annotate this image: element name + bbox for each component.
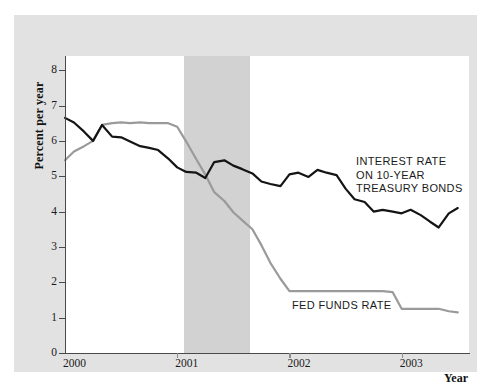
series-line-fed-funds-rate	[65, 122, 458, 312]
annotation-treasury-line-1: INTEREST RATE	[356, 155, 446, 167]
x-tick-label-2000: 2000	[63, 357, 86, 369]
plot-area	[65, 56, 469, 353]
annotation-fed-funds-rate: FED FUNDS RATE	[292, 299, 391, 313]
y-tick-1	[59, 318, 65, 319]
x-tick-label-2003: 2003	[400, 357, 423, 369]
annotation-treasury-line-2: ON 10-YEAR	[356, 169, 425, 181]
y-tick-4	[59, 212, 65, 213]
y-tick-label-2: 2	[31, 275, 57, 287]
x-tick-label-2002: 2002	[287, 357, 310, 369]
y-tick-7	[59, 106, 65, 107]
annotation-treasury-line-3: TREASURY BONDS	[356, 182, 463, 194]
annotation-10-year-treasury: INTEREST RATEON 10-YEARTREASURY BONDS	[356, 155, 463, 196]
y-axis-line	[65, 56, 66, 354]
y-tick-0	[59, 353, 65, 354]
y-tick-label-1: 1	[31, 311, 57, 323]
chart-screenshot: 012345678 2000200120022003 Percent per y…	[0, 0, 491, 387]
y-tick-8	[59, 70, 65, 71]
plot-svg	[65, 56, 469, 353]
y-tick-label-4: 4	[31, 205, 57, 217]
y-tick-2	[59, 282, 65, 283]
y-tick-label-3: 3	[31, 240, 57, 252]
y-tick-3	[59, 247, 65, 248]
x-axis-line	[65, 353, 470, 354]
x-tick-label-2001: 2001	[175, 357, 198, 369]
x-axis-title: Year	[444, 371, 468, 386]
y-tick-label-0: 0	[31, 346, 57, 358]
y-tick-5	[59, 176, 65, 177]
y-tick-6	[59, 141, 65, 142]
y-axis-title: Percent per year	[32, 66, 47, 186]
figure-panel: 012345678 2000200120022003 Percent per y…	[14, 15, 477, 372]
